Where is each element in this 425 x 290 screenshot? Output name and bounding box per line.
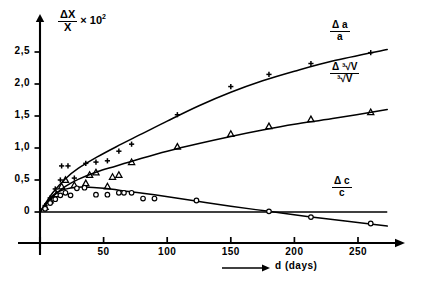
curve-label-v-denominator: ³√V xyxy=(330,74,359,85)
data-point-marker xyxy=(308,116,314,122)
data-point-marker xyxy=(58,193,63,198)
x-axis-tick-label: 250 xyxy=(333,247,383,257)
curve-label-a-numerator: Δ a xyxy=(330,20,350,32)
y-axis-title: ΔX X × 102 xyxy=(58,9,106,33)
curve-label-c-denominator: c xyxy=(332,188,352,199)
y-axis-tick-label: 1,5 xyxy=(0,110,30,120)
y-axis-title-exponent: 2 xyxy=(102,13,106,20)
curve-label-a-fraction: Δ a a xyxy=(330,20,350,42)
curve-label-c-numerator: Δ c xyxy=(332,176,352,188)
data-point-marker xyxy=(48,201,53,206)
y-axis-tick-label: 2,5 xyxy=(0,46,30,56)
data-point-marker xyxy=(122,191,127,196)
curve-label-delta-c-over-c: Δ c c xyxy=(332,176,352,198)
y-axis-tick-label: 0 xyxy=(0,206,30,216)
data-point-marker xyxy=(129,191,134,196)
data-point-marker xyxy=(75,186,80,191)
y-axis-title-numerator: ΔX xyxy=(58,9,77,22)
x-axis-tick-label: 50 xyxy=(79,247,129,257)
curve-label-a-denominator: a xyxy=(330,32,350,43)
x-axis-title: d (days) xyxy=(275,261,317,271)
x-axis-tick-label: 200 xyxy=(269,247,319,257)
x-axis-arrow-icon xyxy=(222,262,270,274)
data-point-marker xyxy=(228,131,234,137)
data-point-marker xyxy=(368,221,373,226)
data-point-marker xyxy=(43,207,48,212)
data-point-marker xyxy=(63,191,68,196)
y-axis-tick-label: 1,0 xyxy=(0,142,30,152)
data-marker-layer xyxy=(42,50,374,226)
y-axis-tick-label: 0,5 xyxy=(0,174,30,184)
y-axis-tick-label: 2,0 xyxy=(0,78,30,88)
data-point-marker xyxy=(117,191,122,196)
x-axis-tick-label: 150 xyxy=(206,247,256,257)
data-point-marker xyxy=(116,172,122,178)
curve-label-v-numerator-text: Δ ³√V xyxy=(332,62,357,73)
data-point-marker xyxy=(267,209,272,214)
data-point-marker xyxy=(53,197,58,202)
y-axis-arrow-icon xyxy=(36,14,44,22)
y-axis-title-fraction: ΔX X xyxy=(58,9,77,33)
data-point-marker xyxy=(266,123,272,129)
curve-label-delta-a-over-a: Δ a a xyxy=(330,20,350,42)
x-axis-arrow-icon xyxy=(395,239,405,247)
data-point-marker xyxy=(309,215,314,220)
data-point-marker xyxy=(83,180,89,186)
data-point-marker xyxy=(105,192,110,197)
x-axis-tick-label: 100 xyxy=(142,247,192,257)
axis-layer xyxy=(18,14,405,255)
y-axis-title-denominator: X xyxy=(58,22,77,34)
curve-label-v-denominator-text: ³√V xyxy=(337,74,353,85)
data-point-marker xyxy=(194,198,199,203)
data-point-marker xyxy=(109,174,115,180)
y-axis-title-multiplier: × 10 xyxy=(80,14,102,26)
curve-label-v-numerator: Δ ³√V xyxy=(330,62,359,74)
data-point-marker xyxy=(68,193,73,198)
data-point-marker xyxy=(152,196,157,201)
data-point-marker xyxy=(141,196,146,201)
figure-root: ΔX X × 102 d (days) Δ a a Δ ³√V ³√V Δ xyxy=(0,0,425,290)
data-point-marker xyxy=(82,185,87,190)
curve-label-delta-cuberoot-v: Δ ³√V ³√V xyxy=(330,62,359,84)
data-point-marker xyxy=(94,192,99,197)
curve-label-c-fraction: Δ c c xyxy=(332,176,352,198)
x-axis-title-label: d (days) xyxy=(275,260,317,271)
curve-label-v-fraction: Δ ³√V ³√V xyxy=(330,62,359,84)
